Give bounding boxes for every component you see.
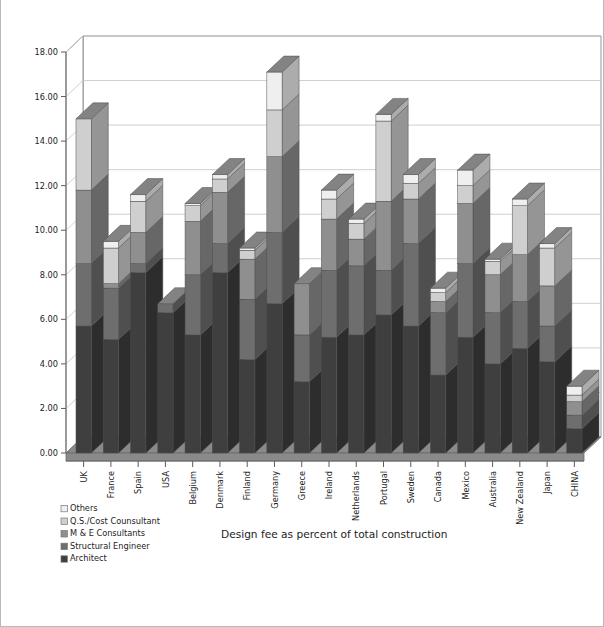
chart-frame: 0.002.004.006.008.0010.0012.0014.0016.00… bbox=[0, 0, 604, 627]
y-axis-tick-label: 16.00 bbox=[35, 92, 58, 102]
bar-segment-face bbox=[376, 315, 391, 453]
bar-segment-face bbox=[485, 259, 500, 261]
bar-segment-face bbox=[185, 206, 200, 222]
legend-label: Q.S./Cost Counsultant bbox=[70, 516, 161, 526]
x-axis-category-label: Japan bbox=[542, 471, 552, 495]
bar-segment-face bbox=[76, 326, 91, 453]
y-axis-tick-label: 18.00 bbox=[35, 47, 58, 57]
bar-segment-face bbox=[103, 284, 118, 288]
x-axis-category-label: Mexico bbox=[461, 471, 471, 500]
x-axis-category-label: Denmark bbox=[215, 471, 225, 509]
bar-segment-face bbox=[458, 337, 473, 453]
bar-segment-face bbox=[567, 415, 582, 428]
legend-swatch bbox=[61, 505, 67, 511]
bar-segment-face bbox=[567, 395, 582, 402]
bar-segment-face bbox=[539, 248, 554, 286]
bar-segment-face bbox=[485, 275, 500, 313]
bar-segment-face bbox=[212, 175, 227, 179]
bar-segment-face bbox=[294, 284, 309, 335]
y-axis-tick-label: 0.00 bbox=[40, 448, 58, 458]
legend-swatch bbox=[61, 518, 67, 524]
bar-segment-face bbox=[485, 261, 500, 274]
bar-segment-face bbox=[76, 264, 91, 326]
bar-segment-face bbox=[131, 201, 146, 232]
x-axis-category-label: Canada bbox=[433, 471, 443, 502]
bar-segment-face bbox=[185, 335, 200, 453]
legend-label: Others bbox=[70, 503, 98, 513]
bar-column bbox=[567, 370, 599, 453]
bar-segment-face bbox=[485, 364, 500, 453]
bar-segment-face bbox=[212, 192, 227, 243]
bar-segment-face bbox=[158, 304, 173, 313]
bar-segment-face bbox=[321, 199, 336, 219]
bar-segment-face bbox=[430, 375, 445, 453]
legend-label: Structural Engineer bbox=[70, 541, 150, 551]
bar-segment-face bbox=[458, 170, 473, 186]
bar-segment-face bbox=[321, 219, 336, 270]
bar-segment-face bbox=[240, 299, 255, 359]
x-axis-category-label: Sweden bbox=[406, 471, 416, 503]
y-axis-tick-label: 14.00 bbox=[35, 136, 58, 146]
x-axis-category-label: Finland bbox=[242, 471, 252, 500]
bar-segment-face bbox=[76, 119, 91, 190]
bar-segment-face bbox=[512, 348, 527, 453]
bar-segment-face bbox=[131, 232, 146, 263]
x-axis-category-label: USA bbox=[161, 471, 171, 488]
bar-segment-face bbox=[458, 203, 473, 263]
bar-segment-face bbox=[103, 339, 118, 453]
bar-segment-face bbox=[267, 232, 282, 303]
x-axis-category-label: Greece bbox=[297, 471, 307, 500]
bar-segment-face bbox=[512, 255, 527, 302]
legend-label: M & E Consultants bbox=[70, 528, 145, 538]
y-axis-tick-label: 12.00 bbox=[35, 181, 58, 191]
bar-segment-face bbox=[539, 244, 554, 248]
x-axis-category-label: Netherlands bbox=[351, 471, 361, 521]
bar-segment-face bbox=[212, 179, 227, 192]
bar-segment-face bbox=[403, 326, 418, 453]
bar-segment-face bbox=[485, 313, 500, 364]
bar-segment-face bbox=[103, 241, 118, 248]
bar-segment-face bbox=[349, 239, 364, 266]
bar-segment-face bbox=[131, 273, 146, 453]
bar-segment-face bbox=[131, 264, 146, 273]
bar-segment-face bbox=[131, 195, 146, 202]
bar-segment-face bbox=[240, 259, 255, 299]
bar-segment-face bbox=[185, 221, 200, 274]
bar-segment-face bbox=[567, 386, 582, 395]
bar-segment-face bbox=[349, 224, 364, 240]
bar-segment-face bbox=[376, 121, 391, 201]
bar-segment-face bbox=[539, 286, 554, 326]
bar-segment-face bbox=[185, 275, 200, 335]
bar-segment-face bbox=[349, 266, 364, 335]
bar-segment-face bbox=[539, 326, 554, 362]
bar-segment-face bbox=[267, 110, 282, 157]
bar-segment-face bbox=[430, 302, 445, 313]
bar-segment-face bbox=[212, 273, 227, 453]
y-axis-tick-label: 6.00 bbox=[40, 314, 58, 324]
x-axis-category-label: Australia bbox=[488, 471, 498, 507]
bar-segment-face bbox=[512, 302, 527, 349]
bar-segment-face bbox=[376, 201, 391, 270]
bar-segment-face bbox=[349, 335, 364, 453]
bar-segment-face bbox=[321, 190, 336, 199]
bar-segment-face bbox=[212, 244, 227, 273]
bar-segment-face bbox=[403, 175, 418, 184]
x-axis-category-label: CHINA bbox=[570, 471, 580, 497]
bar-segment-face bbox=[267, 304, 282, 453]
x-axis-category-label: Belgium bbox=[188, 471, 198, 505]
legend-label: Architect bbox=[70, 553, 108, 563]
y-axis-tick-label: 4.00 bbox=[40, 359, 58, 369]
bar-segment-face bbox=[267, 157, 282, 233]
y-axis-tick-label: 2.00 bbox=[40, 403, 58, 413]
legend-swatch bbox=[61, 543, 67, 549]
bar-segment-face bbox=[349, 219, 364, 223]
legend-swatch bbox=[61, 531, 67, 537]
bar-segment-face bbox=[240, 250, 255, 259]
chart-title: Design fee as percent of total construct… bbox=[221, 528, 447, 540]
x-axis-category-label: New Zealand bbox=[515, 471, 525, 525]
legend-swatch bbox=[61, 556, 67, 562]
x-axis-category-label: Spain bbox=[133, 471, 143, 494]
bar-segment-face bbox=[567, 428, 582, 453]
x-axis-category-label: UK bbox=[79, 470, 89, 482]
bar-segment-face bbox=[103, 288, 118, 339]
